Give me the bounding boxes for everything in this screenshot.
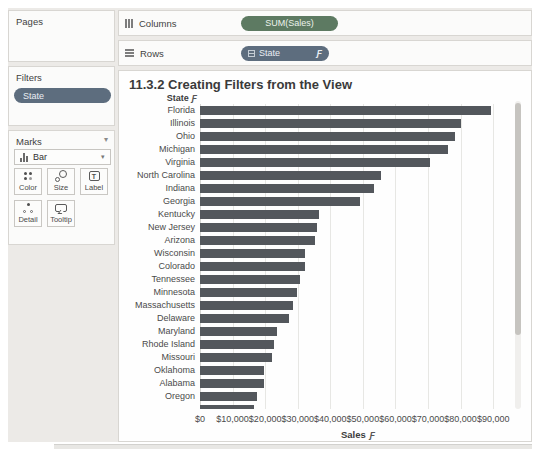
bar-row [200, 260, 516, 273]
bar-row [200, 130, 516, 143]
bar-new-jersey[interactable] [200, 223, 317, 232]
x-axis-title[interactable]: SalesƑ [200, 429, 516, 440]
scrollbar-thumb[interactable] [515, 103, 521, 335]
x-axis-title-label: Sales [341, 429, 366, 440]
row-label[interactable]: Arizona [125, 234, 195, 247]
columns-pill-sum-sales[interactable]: SUM(Sales) [241, 16, 338, 31]
row-label[interactable]: Virginia [125, 156, 195, 169]
row-label[interactable]: Oregon [125, 390, 195, 403]
chevron-down-icon: ▾ [101, 153, 105, 161]
marks-title: Marks [16, 136, 42, 147]
row-labels: FloridaIllinoisOhioMichiganVirginiaNorth… [125, 104, 195, 403]
bar-wisconsin[interactable] [200, 249, 305, 258]
filters-title: Filters [16, 72, 42, 83]
row-label[interactable]: Colorado [125, 260, 195, 273]
bar-georgia[interactable] [200, 197, 360, 206]
tooltip-button[interactable]: Tooltip [47, 200, 75, 227]
bar-row [200, 234, 516, 247]
filter-icon: Ƒ [192, 93, 197, 103]
columns-pill-label: SUM(Sales) [265, 18, 314, 28]
size-button[interactable]: Size [47, 168, 75, 195]
vertical-scrollbar[interactable] [515, 101, 521, 409]
x-axis-ticks[interactable]: $0$10,000$20,000$30,000$40,000$50,000$60… [200, 414, 516, 425]
x-tick-label: $70,000 [412, 414, 445, 424]
row-label[interactable]: North Carolina [125, 169, 195, 182]
bar-illinois[interactable] [200, 119, 461, 128]
pages-shelf[interactable]: Pages [8, 10, 115, 62]
filter-pill-label: State [23, 91, 44, 101]
chevron-down-icon[interactable]: ▾ [104, 135, 108, 144]
row-label[interactable]: Wisconsin [125, 247, 195, 260]
bar-row [200, 182, 516, 195]
row-label[interactable]: Delaware [125, 312, 195, 325]
size-icon [55, 170, 67, 182]
bar-minnesota[interactable] [200, 288, 297, 297]
bar-michigan[interactable] [200, 145, 448, 154]
x-tick-label: $80,000 [444, 414, 477, 424]
bar-partial[interactable] [200, 405, 254, 409]
label-button[interactable]: T Label [80, 168, 108, 195]
row-label[interactable]: Illinois [125, 117, 195, 130]
bar-arizona[interactable] [200, 236, 315, 245]
row-label[interactable]: Rhode Island [125, 338, 195, 351]
bar-ohio[interactable] [200, 132, 455, 141]
bar-tennessee[interactable] [200, 275, 300, 284]
row-label[interactable]: Minnesota [125, 286, 195, 299]
row-label[interactable]: Georgia [125, 195, 195, 208]
bar-row [200, 195, 516, 208]
bar-kentucky[interactable] [200, 210, 319, 219]
rows-pill-state[interactable]: State Ƒ [241, 46, 329, 61]
filter-icon: Ƒ [370, 430, 375, 440]
row-header-state[interactable]: StateƑ [125, 93, 197, 103]
row-label[interactable]: Maryland [125, 325, 195, 338]
bar-virginia[interactable] [200, 158, 430, 167]
row-label[interactable]: Ohio [125, 130, 195, 143]
x-tick-label: $10,000 [216, 414, 249, 424]
horizontal-scrollbar[interactable] [54, 444, 532, 449]
bar-row [200, 169, 516, 182]
detail-button[interactable]: Detail [14, 200, 42, 227]
row-label[interactable]: New Jersey [125, 221, 195, 234]
x-tick-label: $30,000 [281, 414, 314, 424]
plot-area [200, 104, 516, 409]
bar-row [200, 273, 516, 286]
row-label[interactable]: Missouri [125, 351, 195, 364]
row-label[interactable]: Florida [125, 104, 195, 117]
row-label[interactable]: Michigan [125, 143, 195, 156]
bar-oregon[interactable] [200, 392, 257, 401]
columns-icon [125, 19, 133, 28]
color-icon [24, 170, 32, 182]
bar-oklahoma[interactable] [200, 366, 264, 375]
bar-maryland[interactable] [200, 327, 277, 336]
filter-pill-state[interactable]: State [14, 88, 111, 103]
columns-shelf-label: Columns [139, 18, 177, 29]
row-label[interactable]: Kentucky [125, 208, 195, 221]
bar-massachusetts[interactable] [200, 301, 293, 310]
bar-row-partial [200, 403, 516, 409]
bar-delaware[interactable] [200, 314, 289, 323]
bar-indiana[interactable] [200, 184, 374, 193]
row-label[interactable]: Massachusetts [125, 299, 195, 312]
bar-alabama[interactable] [200, 379, 264, 388]
rows-shelf[interactable]: Rows State Ƒ [118, 40, 532, 66]
columns-shelf[interactable]: Columns SUM(Sales) [118, 10, 532, 36]
row-label[interactable]: Tennessee [125, 273, 195, 286]
mark-type-dropdown[interactable]: Bar ▾ [14, 149, 111, 165]
rows-shelf-label: Rows [140, 48, 164, 59]
bar-row [200, 312, 516, 325]
row-label[interactable]: Oklahoma [125, 364, 195, 377]
bar-row [200, 286, 516, 299]
row-label[interactable]: Alabama [125, 377, 195, 390]
bar-rhode-island[interactable] [200, 340, 274, 349]
bar-north-carolina[interactable] [200, 171, 381, 180]
bar-missouri[interactable] [200, 353, 272, 362]
bar-florida[interactable] [200, 106, 491, 115]
row-label[interactable]: Indiana [125, 182, 195, 195]
bar-colorado[interactable] [200, 262, 305, 271]
bar-row [200, 338, 516, 351]
color-button[interactable]: Color [14, 168, 42, 195]
x-tick-label: $50,000 [347, 414, 380, 424]
tooltip-button-label: Tooltip [50, 215, 72, 224]
filter-icon: Ƒ [317, 48, 322, 58]
filters-shelf[interactable]: Filters State [8, 66, 115, 126]
